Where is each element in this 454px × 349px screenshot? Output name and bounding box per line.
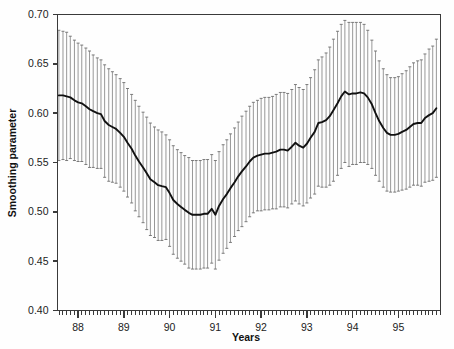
y-tick-label: 0.65 [28,57,49,69]
y-axis-title: Smoothing parameter [6,109,18,218]
x-tick-label: 94 [347,321,359,333]
y-tick-label: 0.60 [28,107,49,119]
smoothing-parameter-chart: 0.400.450.500.550.600.650.70 88899091929… [0,0,454,349]
y-axis-tick-labels: 0.400.450.500.550.600.650.70 [28,8,49,316]
y-tick-label: 0.45 [28,255,49,267]
x-axis-ticks [59,311,440,318]
y-tick-label: 0.55 [28,156,49,168]
error-bars-group [57,20,438,269]
x-axis-title: Years [232,331,260,343]
x-tick-label: 95 [393,321,405,333]
series-line-group [59,91,437,214]
x-tick-label: 88 [72,321,84,333]
y-tick-label: 0.50 [28,205,49,217]
x-tick-label: 91 [210,321,222,333]
x-tick-label: 89 [118,321,130,333]
y-tick-label: 0.70 [28,8,49,20]
x-tick-label: 93 [301,321,313,333]
x-tick-label: 90 [164,321,176,333]
series-line [59,91,437,214]
y-tick-label: 0.40 [28,304,49,316]
chart-figure: 0.400.450.500.550.600.650.70 88899091929… [0,0,454,349]
